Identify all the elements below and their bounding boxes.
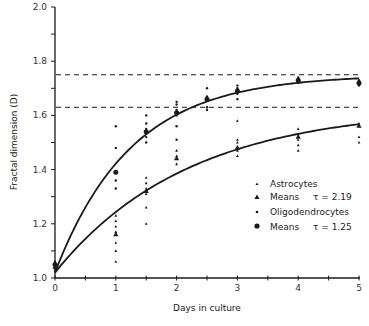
- astrocyte-point: [114, 260, 117, 263]
- astrocyte-mean-point: [174, 156, 179, 161]
- legend-label: Astrocytes: [270, 179, 318, 189]
- astrocyte-point: [114, 249, 117, 252]
- oligodendrocyte-point: [206, 87, 208, 89]
- astrocyte-point: [236, 141, 239, 144]
- oligodendrocyte-point: [206, 109, 208, 111]
- legend-item-astrocyte-means: Means τ = 2.19: [254, 192, 352, 202]
- oligodendrocyte-point: [115, 147, 117, 149]
- astrocyte-point: [236, 154, 239, 157]
- legend-label: Oligodendrocytes: [270, 207, 349, 217]
- x-tick-label: 1: [113, 283, 119, 293]
- astrocyte-point: [358, 141, 361, 144]
- oligodendrocyte-mean-point: [235, 89, 240, 94]
- oligodendrocyte-mean-point: [205, 97, 210, 102]
- oligodendrocyte-point: [145, 136, 147, 138]
- astrocyte-point: [175, 149, 178, 152]
- astrocyte-point: [358, 135, 361, 138]
- astrocyte-point: [236, 119, 239, 122]
- y-tick-label: 2.0: [33, 2, 48, 12]
- y-tick-label: 1.2: [33, 219, 47, 229]
- oligodendrocyte-point: [145, 114, 147, 116]
- small-dot-icon: [256, 211, 259, 214]
- astrocyte-point: [297, 149, 300, 152]
- legend-item-oligodendrocytes: Oligodendrocytes: [256, 207, 350, 217]
- y-tick-label: 1.4: [33, 165, 48, 175]
- oligodendrocyte-mean-point: [174, 110, 179, 115]
- astrocyte-point: [114, 225, 117, 228]
- astrocyte-point: [145, 222, 148, 225]
- triangle-icon: [254, 195, 259, 200]
- legend-tau: τ = 1.25: [313, 222, 352, 232]
- oligodendrocyte-mean-point: [53, 262, 58, 267]
- legend: Astrocytes Means τ = 2.19 Oligodendrocyt…: [254, 179, 352, 232]
- astrocyte-point: [114, 219, 117, 222]
- oligodendrocyte-point: [236, 98, 238, 100]
- legend-item-oligodendrocyte-means: Means τ = 1.25: [254, 222, 351, 232]
- astrocyte-mean-point: [235, 145, 240, 150]
- oligodendrocyte-point: [175, 125, 177, 127]
- oligodendrocyte-point: [206, 106, 208, 108]
- legend-item-astrocytes: Astrocytes: [256, 179, 318, 189]
- oligodendrocyte-point: [145, 141, 147, 143]
- oligodendrocyte-mean-point: [144, 129, 149, 134]
- small-triangle-icon: [256, 183, 259, 186]
- oligodendrocyte-mean-point: [113, 170, 118, 175]
- astrocyte-point: [145, 176, 148, 179]
- y-axis-title: Fractal dimension (D): [9, 94, 19, 191]
- astrocyte-point: [175, 163, 178, 166]
- y-tick-label: 1.0: [33, 273, 48, 283]
- x-tick-label: 3: [235, 283, 241, 293]
- fractal-dimension-chart: 0123451.01.21.41.61.82.0 Days in culture…: [0, 0, 369, 326]
- y-tick-label: 1.6: [33, 110, 48, 120]
- x-tick-label: 2: [174, 283, 180, 293]
- dot-icon: [254, 223, 259, 228]
- oligodendrocyte-point: [175, 103, 177, 105]
- oligodendrocyte-point: [236, 84, 238, 86]
- oligodendrocyte-point: [115, 125, 117, 127]
- astrocyte-point: [114, 241, 117, 244]
- legend-label: Means: [270, 192, 300, 202]
- oligodendrocyte-mean-point: [357, 80, 362, 85]
- oligodendrocyte-mean-point: [296, 78, 301, 83]
- x-tick-label: 0: [52, 283, 58, 293]
- oligodendrocyte-point: [115, 179, 117, 181]
- astrocyte-point: [297, 144, 300, 147]
- oligodendrocyte-point: [175, 139, 177, 141]
- x-tick-label: 4: [295, 283, 301, 293]
- x-tick-label: 5: [356, 283, 362, 293]
- astrocyte-point: [297, 127, 300, 130]
- astrocyte-point: [145, 182, 148, 185]
- legend-label: Means: [270, 222, 300, 232]
- oligodendrocyte-point: [145, 122, 147, 124]
- axes: 0123451.01.21.41.61.82.0: [33, 2, 362, 293]
- asymptote-lines: [56, 75, 359, 108]
- legend-tau: τ = 2.19: [313, 192, 352, 202]
- astrocyte-point: [236, 138, 239, 141]
- astrocyte-mean-point: [113, 232, 118, 237]
- x-axis-title: Days in culture: [173, 303, 241, 313]
- astrocyte-point: [145, 206, 148, 209]
- y-tick-label: 1.8: [33, 56, 48, 66]
- oligodendrocyte-point: [115, 187, 117, 189]
- oligodendrocyte-point: [175, 101, 177, 103]
- data-points: [52, 76, 361, 271]
- astrocyte-point: [114, 214, 117, 217]
